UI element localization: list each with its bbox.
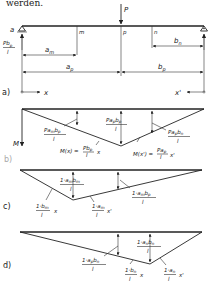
svg-text:Pambp: Pambp [44,127,61,134]
caption-a: a) [2,88,10,97]
svg-text:l: l [160,154,162,160]
svg-text:l: l [92,266,94,272]
slope-right-label: 1·am l x' [92,203,112,218]
svg-text:l: l [70,186,72,192]
caption-b: b) [4,155,12,164]
m-axis-label: M [13,140,19,148]
ordinate-right-label: Papbn l [168,129,190,144]
svg-text:l: l [129,276,131,282]
beam-diagram: werden. P a Pbp l m p n [0,0,209,287]
svg-text:x: x [53,208,58,214]
svg-text:x': x' [106,208,112,214]
svg-text:am: am [45,46,54,55]
svg-text:1·bm: 1·bm [36,203,49,210]
ordinate-left-label: 1·apbn l [82,257,106,272]
svg-text:Pbp: Pbp [3,40,13,48]
svg-text:bn: bn [174,37,182,46]
slope-left-label: 1·bn l x [125,267,144,282]
ordinate-right-label: 1·ambp l [132,190,156,205]
svg-text:x': x' [169,152,175,158]
svg-text:1·bn: 1·bn [125,267,137,274]
left-support-icon [17,26,27,32]
svg-text:ap: ap [66,63,73,73]
header-text: werden. [6,0,43,8]
moment-equation-right: M(x') = Pap l x' [133,147,175,160]
ordinate-left-label: Pambp l [44,127,66,142]
svg-text:x: x [96,149,101,155]
panel-c-influence-line: 1·ambm l 1·ambp l 1·bm l x 1·am l x' c) [3,170,202,218]
svg-text:l: l [168,276,170,282]
support-left-label: a [10,26,14,34]
svg-text:1·ambp: 1·ambp [132,190,151,197]
svg-text:x': x' [178,272,184,278]
ordinate-mid-label: Papbp l [106,117,127,132]
panel-d-influence-line: 1·apbn l 1·anbn l 1·bn l x 1·an l x' d) [3,232,202,282]
point-m-label: m [79,29,84,35]
svg-text:Pap: Pap [157,147,167,154]
moment-equation-left: M(x) = Pbp l x [60,145,101,158]
slope-right-label: 1·an l x' [164,267,184,282]
svg-text:x: x [139,272,144,278]
caption-c: c) [3,202,11,211]
svg-text:1·an: 1·an [164,267,176,274]
svg-text:l: l [115,126,117,132]
panel-a-beam: P a Pbp l m p n am bn [2,4,208,97]
svg-text:1·am: 1·am [92,203,105,210]
svg-text:1·anbn: 1·anbn [137,239,155,246]
slope-left-label: 1·bm l x [36,203,58,218]
panel-b-moment: M Pambp l Papbp l Papbn l M(x) = Pbp [4,109,204,164]
svg-text:1·ambm: 1·ambm [60,177,80,184]
svg-text:l: l [53,136,55,142]
point-p-label: p [122,29,127,36]
point-n-label: n [154,29,158,35]
reaction-left-label: Pbp l [3,40,15,55]
svg-text:Papbn: Papbn [168,129,184,136]
svg-text:M(x') =: M(x') = [133,151,154,157]
svg-text:l: l [147,248,149,254]
svg-text:M(x) =: M(x) = [60,148,79,154]
svg-text:l: l [177,138,179,144]
svg-text:1·apbn: 1·apbn [82,257,100,264]
svg-text:Pbp: Pbp [83,145,93,152]
svg-text:l: l [41,212,43,218]
svg-text:bp: bp [158,63,166,73]
load-label: P [124,6,129,14]
svg-text:l: l [96,212,98,218]
svg-text:Papbp: Papbp [106,117,122,124]
x-prime-axis-label: x' [174,89,181,97]
caption-d: d) [3,261,11,270]
svg-text:l: l [7,49,9,55]
ordinate-mid-label: 1·ambm l [60,177,84,192]
ordinate-mid-label: 1·anbn l [137,239,161,254]
svg-text:l: l [86,152,88,158]
x-axis-label: x [43,89,49,97]
svg-text:l: l [142,199,144,205]
